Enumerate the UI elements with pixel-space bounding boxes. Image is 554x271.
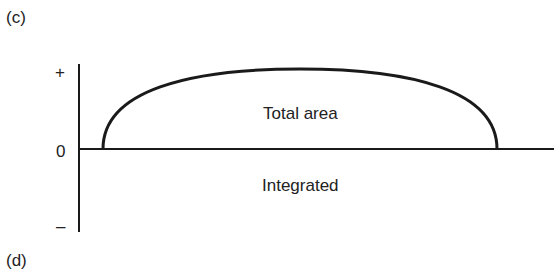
integrated-label: Integrated [262,177,339,194]
axis-plus-label: + [55,64,65,81]
axis-zero-label: 0 [56,143,65,160]
total-area-label: Total area [263,105,338,122]
diagram-graphic [0,0,554,271]
axis-minus-label: – [56,218,65,235]
panel-label-d: (d) [6,252,27,269]
